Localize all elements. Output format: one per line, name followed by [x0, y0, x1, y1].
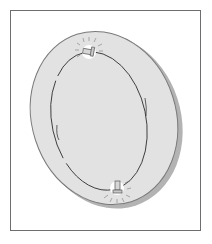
bottom-pin-body: [115, 181, 120, 190]
disc-illustration: [0, 0, 212, 244]
disc: [8, 12, 199, 224]
bottom-pin-head: [113, 190, 122, 193]
